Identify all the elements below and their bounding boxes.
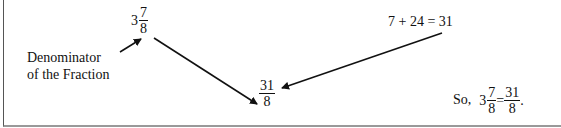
arrow-sum-to-improper bbox=[282, 33, 442, 88]
arrow-label-to-denominator bbox=[120, 39, 141, 52]
arrow-mixed-to-improper bbox=[154, 38, 257, 104]
